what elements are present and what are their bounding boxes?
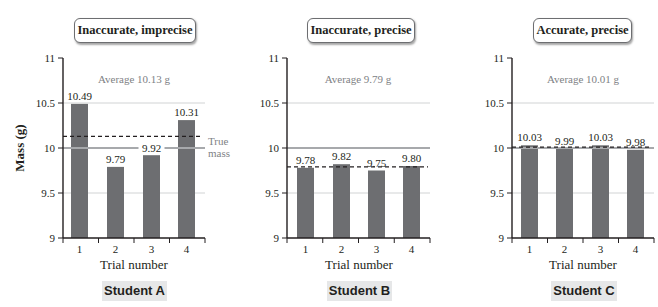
panel-a-x-tick-label: 2	[113, 243, 119, 255]
panel-c-y-tick-label: 9.5	[490, 187, 504, 199]
panel-b-x-tick-label: 3	[374, 243, 380, 255]
panel-b-bar-1	[297, 168, 314, 238]
panel-c-value-label-2: 9.99	[555, 135, 575, 147]
panel-b-value-label-3: 9.75	[367, 157, 387, 169]
panel-b-y-tick-label: 10.5	[260, 97, 280, 109]
panel-b-x-tick-label: 1	[303, 243, 309, 255]
panel-c-average-label: Average 10.01 g	[547, 73, 620, 85]
panel-c-y-tick-label: 10.5	[485, 97, 505, 109]
panel-b-y-tick-label: 9.5	[265, 187, 279, 199]
panel-c-x-tick-label: 1	[527, 243, 533, 255]
panel-a-y-tick-label: 11	[44, 52, 55, 64]
panel-c-y-tick-label: 11	[493, 52, 504, 64]
panel-b-x-tick-label: 2	[339, 243, 345, 255]
panel-a-bar-2	[107, 167, 124, 238]
panel-a-y-tick-label: 10	[44, 142, 56, 154]
panel-a-y-tick-label: 9.5	[41, 187, 55, 199]
panel-b-value-label-2: 9.82	[332, 150, 351, 162]
panel-a-x-tick-label: 3	[149, 243, 155, 255]
panel-b-value-label-1: 9.78	[296, 154, 316, 166]
panel-c-y-tick-label: 9	[499, 232, 505, 244]
panel-c-bar-4	[627, 150, 644, 238]
panel-c-bar-3	[592, 145, 609, 238]
panel-b-x-tick-label: 4	[409, 243, 415, 255]
panel-a-student-label: Student A	[102, 281, 167, 301]
panel-c-bar-1	[521, 145, 538, 238]
panel-c-value-label-4: 9.98	[626, 136, 646, 148]
panel-a-average-label: Average 10.13 g	[98, 73, 171, 85]
panel-b-y-tick-label: 9	[274, 232, 280, 244]
panel-b-average-label: Average 9.79 g	[325, 73, 392, 85]
panel-a-y-tick-label: 10.5	[36, 97, 56, 109]
panel-c-x-axis-label: Trial number	[533, 257, 633, 273]
panel-c-x-tick-label: 3	[598, 243, 604, 255]
panel-b-y-tick-label: 11	[268, 52, 279, 64]
panel-a-y-tick-label: 9	[50, 232, 56, 244]
true-mass-label-line2: mass	[208, 147, 230, 159]
panel-a-bar-4	[178, 120, 195, 238]
panel-a-x-tick-label: 1	[77, 243, 83, 255]
panel-b-bar-4	[403, 166, 420, 238]
panel-c-x-tick-label: 2	[562, 243, 568, 255]
panel-a-value-label-4: 10.31	[174, 106, 199, 118]
panel-c-bar-2	[556, 149, 573, 238]
panel-c-x-tick-label: 4	[633, 243, 639, 255]
panel-a-bar-3	[143, 155, 160, 238]
panel-b-bar-3	[368, 171, 385, 239]
panel-b-y-tick-label: 10	[268, 142, 280, 154]
panel-b-x-axis-label: Trial number	[309, 257, 409, 273]
panel-a-x-tick-label: 4	[184, 243, 190, 255]
panel-c-value-label-3: 10.03	[588, 131, 613, 143]
panel-a-bar-1	[71, 104, 88, 238]
figure: Inaccurate, imprecise Inaccurate, precis…	[0, 0, 658, 307]
true-mass-label-line1: True	[208, 135, 228, 147]
panel-b-student-label: Student B	[327, 281, 392, 301]
panel-a-value-label-2: 9.79	[106, 153, 126, 165]
panel-b-bar-2	[333, 164, 350, 238]
panel-a-value-label-3: 9.92	[142, 142, 161, 154]
panel-c-y-tick-label: 10	[493, 142, 505, 154]
panel-c-student-label: Student C	[551, 281, 617, 301]
panel-b-value-label-4: 9.80	[402, 152, 422, 164]
panel-a-value-label-1: 10.49	[67, 90, 92, 102]
panel-c-value-label-1: 10.03	[517, 131, 542, 143]
panel-a-x-axis-label: Trial number	[84, 257, 184, 273]
